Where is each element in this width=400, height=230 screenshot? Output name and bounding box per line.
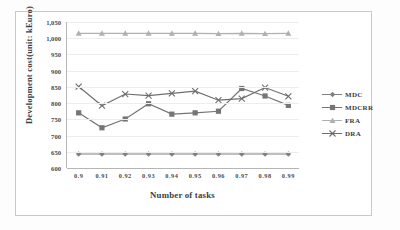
x-tick-label: 0.95 (189, 172, 202, 179)
square-marker (193, 110, 198, 115)
chart-figure: Development cost(unit: kEuro) 6006507007… (0, 0, 400, 230)
gridline (67, 119, 299, 120)
x-tick-label: 0.98 (259, 172, 272, 179)
series-line (79, 89, 289, 128)
gridline (67, 168, 299, 169)
gridline (67, 22, 299, 23)
legend-key-fra (322, 115, 342, 126)
y-tick-label: 900 (31, 67, 61, 74)
gridline (67, 87, 299, 88)
legend-key-mdcrr (322, 102, 342, 113)
y-axis-ticks: 6006507007508008509009501,0001,050 (30, 0, 61, 230)
legend-label: MDC (345, 91, 363, 99)
legend-item-mdcrr[interactable]: MDCRR (322, 101, 394, 114)
cross-marker (285, 93, 291, 99)
x-tick-label: 0.96 (212, 172, 225, 179)
square-marker (329, 105, 334, 110)
x-tick-label: 0.99 (282, 172, 295, 179)
chart-legend: MDCMDCRRFRADRA (322, 88, 394, 140)
y-tick-label: 850 (31, 83, 61, 90)
plot-area: 0.90.910.920.930.940.950.960.970.980.99 (66, 22, 299, 168)
gridline (67, 136, 299, 137)
diamond-marker (329, 92, 335, 98)
legend-item-fra[interactable]: FRA (322, 114, 394, 127)
legend-item-mdc[interactable]: MDC (322, 88, 394, 101)
x-tick-label: 0.91 (95, 172, 108, 179)
series-fra (76, 30, 292, 36)
legend-key-dra (322, 128, 342, 139)
x-tick-label: 0.92 (119, 172, 132, 179)
square-marker (169, 112, 174, 117)
square-marker (99, 125, 104, 130)
y-tick-label: 600 (31, 165, 61, 172)
x-tick-label: 0.94 (165, 172, 178, 179)
square-marker (216, 109, 221, 114)
y-tick-label: 950 (31, 51, 61, 58)
x-tick-label: 0.9 (74, 172, 83, 179)
y-tick-label: 650 (31, 148, 61, 155)
square-marker (262, 93, 267, 98)
y-tick-label: 800 (31, 100, 61, 107)
series-layer (67, 22, 300, 168)
triangle-marker (329, 118, 335, 123)
y-tick-label: 700 (31, 132, 61, 139)
x-axis-title: Number of tasks (66, 190, 299, 200)
y-tick-label: 1,000 (31, 35, 61, 42)
legend-label: DRA (345, 130, 361, 138)
gridline (67, 54, 299, 55)
y-tick-label: 1,050 (31, 19, 61, 26)
cross-marker (329, 131, 335, 137)
legend-item-dra[interactable]: DRA (322, 127, 394, 140)
legend-key-mdc (322, 89, 342, 100)
gridline (67, 71, 299, 72)
x-tick-label: 0.97 (235, 172, 248, 179)
y-tick-label: 750 (31, 116, 61, 123)
gridline (67, 152, 299, 153)
x-tick-label: 0.93 (142, 172, 155, 179)
legend-label: FRA (345, 117, 360, 125)
square-marker (76, 110, 81, 115)
gridline (67, 38, 299, 39)
legend-label: MDCRR (345, 104, 373, 112)
gridline (67, 103, 299, 104)
